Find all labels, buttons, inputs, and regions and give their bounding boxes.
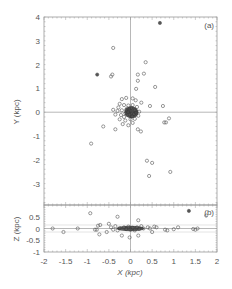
data-point	[116, 215, 119, 218]
data-point	[125, 96, 128, 99]
data-point	[90, 142, 93, 145]
data-point	[120, 234, 123, 237]
data-point	[114, 113, 117, 116]
data-point	[119, 113, 122, 116]
data-point	[192, 227, 195, 230]
panel-b-xz-scatter: 0.50-0.5-1-2-1.5-1-0.500.511.52	[26, 205, 220, 266]
data-point	[137, 219, 140, 222]
data-point	[96, 224, 99, 227]
data-point	[137, 234, 140, 237]
data-point	[118, 118, 121, 121]
y-tick-label: 4	[36, 13, 41, 22]
data-point	[112, 46, 115, 49]
data-point	[96, 73, 99, 76]
y-tick-label: -1	[33, 248, 41, 257]
data-point	[120, 109, 123, 112]
x-tick-label: -0.5	[102, 257, 116, 266]
data-point	[145, 159, 148, 162]
data-point	[154, 85, 157, 88]
x-tick-label: 0	[128, 257, 133, 266]
data-point	[134, 99, 137, 102]
dense-cluster	[117, 226, 145, 232]
axis-labels: (a) (b) X (kpc) Y (kpc) Z (kpc)	[12, 21, 214, 277]
data-point	[136, 79, 139, 82]
y-axis-title-panel-b: Z (kpc)	[12, 216, 21, 241]
y-tick-label: -2	[33, 156, 41, 165]
data-point	[131, 121, 134, 124]
y-tick-label: -1	[33, 132, 41, 141]
data-point	[118, 102, 121, 105]
y-tick-label: 3	[36, 37, 41, 46]
data-point	[102, 125, 105, 128]
panel-a-label: (a)	[204, 21, 214, 30]
data-point	[172, 228, 175, 231]
data-point	[120, 98, 123, 101]
data-point	[148, 104, 151, 107]
x-tick-label: 2	[215, 257, 220, 266]
panel-b-label: (b)	[204, 208, 214, 217]
y-tick-label: 0	[36, 108, 41, 117]
x-tick-label: -1	[84, 257, 92, 266]
data-point	[124, 119, 127, 122]
y-tick-label: 2	[36, 61, 41, 70]
x-tick-label: -2	[40, 257, 48, 266]
data-point	[89, 212, 92, 215]
data-point	[158, 21, 161, 24]
data-point	[142, 72, 145, 75]
x-tick-label: 1	[172, 257, 177, 266]
data-point	[114, 128, 117, 131]
data-point	[117, 106, 120, 109]
data-point	[122, 103, 125, 106]
data-point	[166, 229, 169, 232]
data-point	[147, 174, 150, 177]
dense-cluster	[124, 106, 138, 118]
y-axis-title-panel-a: Y (kpc)	[12, 99, 21, 125]
data-point	[153, 225, 156, 228]
data-point	[161, 104, 164, 107]
x-tick-label: -1.5	[59, 257, 73, 266]
data-point	[135, 87, 138, 90]
data-point	[151, 161, 154, 164]
data-point	[144, 61, 147, 64]
y-tick-label: -3	[33, 180, 41, 189]
data-point	[98, 233, 101, 236]
data-point	[140, 101, 143, 104]
chart-figure: 43210-1-2-3 0.50-0.5-1-2-1.5-1-0.500.511…	[0, 0, 232, 289]
y-tick-label: 0.5	[29, 213, 41, 222]
data-point	[169, 170, 172, 173]
data-point	[136, 128, 139, 131]
data-point	[127, 124, 130, 127]
x-axis-title: X (kpc)	[116, 268, 143, 277]
data-point	[121, 122, 124, 125]
x-tick-label: 0.5	[147, 257, 159, 266]
data-point	[139, 130, 142, 133]
panel-a-xy-scatter: 43210-1-2-3	[33, 13, 217, 205]
data-point	[131, 97, 134, 100]
data-point	[187, 209, 190, 212]
data-point	[122, 115, 125, 118]
y-tick-label: 0	[36, 225, 41, 234]
y-tick-label: -0.5	[26, 236, 40, 245]
data-point	[112, 108, 115, 111]
data-point	[136, 73, 139, 76]
data-point	[167, 117, 170, 120]
y-tick-label: 1	[36, 84, 41, 93]
x-tick-label: 1.5	[190, 257, 202, 266]
